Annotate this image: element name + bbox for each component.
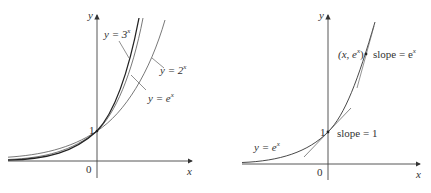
left-graph: y x 0 1 y = 3x y = 2x y = ex <box>8 9 192 178</box>
label-2x: y = 2x <box>159 63 187 76</box>
left-origin-label: 0 <box>86 163 92 175</box>
exponential-figures: y x 0 1 y = 3x y = 2x y = ex y x 0 1 slo… <box>0 0 431 193</box>
right-graph: y x 0 1 slope = 1 y = ex (x, ex) slope =… <box>242 9 421 180</box>
left-y-label: y <box>87 9 93 21</box>
curve-2x <box>8 20 165 157</box>
right-origin-label: 0 <box>317 166 323 178</box>
label-3x: y = 3x <box>103 27 131 40</box>
label-point-x-ex: (x, ex) <box>338 47 364 61</box>
label-slope-ex: slope = ex <box>373 47 417 60</box>
right-intercept-point <box>327 131 330 134</box>
right-x-label: x <box>415 168 421 180</box>
left-one-label: 1 <box>89 124 95 136</box>
label-slope-1: slope = 1 <box>337 127 377 139</box>
label-ex-right: y = ex <box>253 140 281 153</box>
point-x-ex <box>365 53 368 56</box>
leader-3x <box>119 41 129 58</box>
left-intercept-point <box>96 130 99 133</box>
leader-ex <box>131 75 146 90</box>
left-x-label: x <box>186 165 192 177</box>
right-y-label: y <box>318 9 324 21</box>
right-one-label: 1 <box>320 126 326 138</box>
label-ex: y = ex <box>147 91 175 104</box>
